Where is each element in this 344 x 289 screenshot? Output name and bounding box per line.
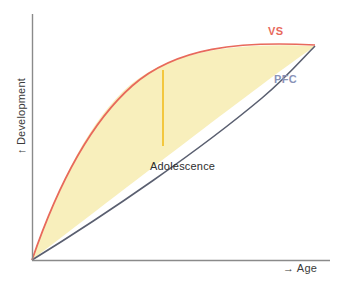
adolescence-annotation-label: Adolescence (150, 160, 215, 172)
pfc-series-label: PFC (274, 73, 297, 85)
shaded-gap-region (32, 45, 315, 260)
vs-series-label: VS (268, 25, 283, 37)
x-axis-label: → Age (283, 262, 317, 274)
developmental-curves-figure: ↑ Development → Age VS PFC Adolescence (0, 0, 344, 289)
y-axis-label: ↑ Development (15, 66, 27, 166)
chart-canvas (0, 0, 344, 289)
